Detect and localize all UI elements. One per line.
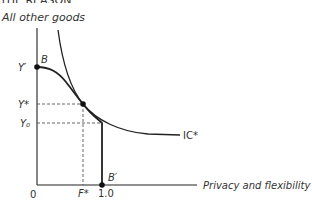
diagram: All other goods Y′ Y* Y₀ B B′ IC* 0 F* 1… xyxy=(0,0,312,200)
tangency-point xyxy=(80,101,86,107)
point-b xyxy=(34,64,40,70)
b-label: B xyxy=(41,54,48,65)
y-prime-label: Y′ xyxy=(18,62,27,73)
point-b-prime xyxy=(99,182,105,188)
y-zero-label: Y₀ xyxy=(20,118,30,129)
ic-label: IC* xyxy=(183,130,198,141)
origin-label: 0 xyxy=(30,189,36,200)
y-star-label: Y* xyxy=(18,99,29,110)
y-axis-label: All other goods xyxy=(1,11,85,24)
one-label: 1.0 xyxy=(98,188,114,199)
f-star-label: F* xyxy=(78,188,89,199)
b-prime-label: B′ xyxy=(108,172,118,183)
budget-constraint xyxy=(37,67,102,185)
x-axis-label: Privacy and flexibility xyxy=(203,180,311,191)
indifference-curve xyxy=(58,30,180,135)
